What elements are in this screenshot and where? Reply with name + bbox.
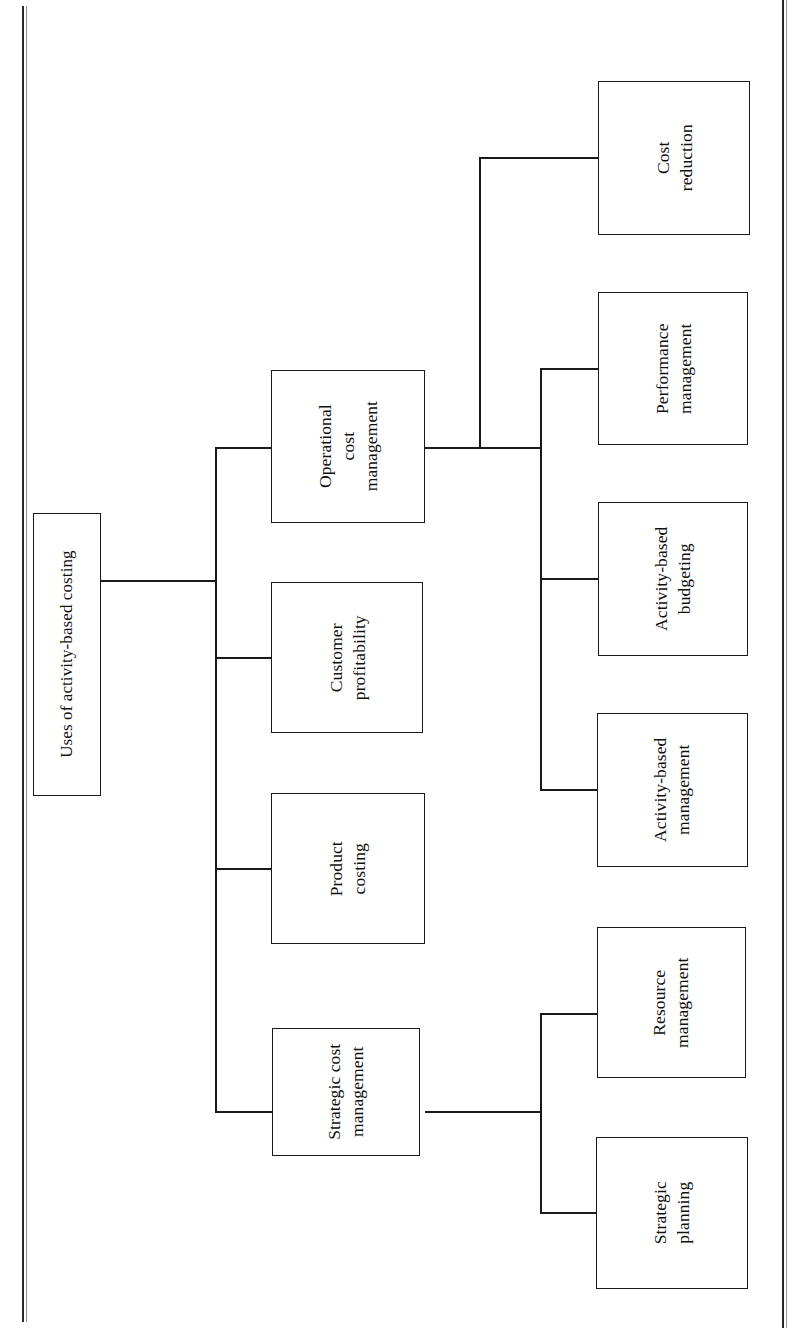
node-customer-profitability: Customer profitability xyxy=(271,582,423,733)
node-label-operational-cost-management: Operational cost management xyxy=(314,401,382,491)
connector-cost-reduction-vertical-bus xyxy=(479,157,481,448)
node-activity-based-budgeting: Activity-based budgeting xyxy=(598,502,748,656)
connector-bus-to-performance-management xyxy=(540,368,599,370)
connector-bus-to-activity-based-budgeting xyxy=(540,578,599,580)
node-label-root: Uses of activity-based costing xyxy=(56,551,78,758)
connector-root-to-bus xyxy=(101,580,216,582)
node-strategic-planning: Strategic planning xyxy=(596,1137,748,1289)
node-label-product-costing: Product costing xyxy=(325,841,371,896)
node-product-costing: Product costing xyxy=(271,793,425,944)
node-resource-management: Resource management xyxy=(597,927,746,1078)
connector-strategic-children-vertical-bus xyxy=(540,1013,542,1213)
node-label-cost-reduction: Cost reduction xyxy=(651,125,697,192)
activity-based-costing-tree-diagram: Uses of activity-based costing Operation… xyxy=(0,0,796,1328)
connector-bus-to-product-costing xyxy=(215,868,272,870)
node-label-activity-based-management: Activity-based management xyxy=(650,738,696,842)
connector-strategic-cost-management-outgoing xyxy=(425,1111,541,1113)
node-operational-cost-management: Operational cost management xyxy=(271,370,425,523)
node-cost-reduction: Cost reduction xyxy=(598,81,750,235)
connector-bus-to-strategic-cost-management xyxy=(215,1111,273,1113)
node-label-strategic-planning: Strategic planning xyxy=(649,1181,695,1244)
connector-operational-cost-management-outgoing xyxy=(425,447,541,449)
connector-bus-to-resource-management xyxy=(540,1013,598,1015)
connector-bus-to-activity-based-management xyxy=(540,789,598,791)
connector-bus-to-operational-cost-management xyxy=(215,447,272,449)
node-uses-of-activity-based-costing: Uses of activity-based costing xyxy=(33,513,101,796)
connector-level1-vertical-bus xyxy=(215,447,217,1112)
connector-bus-to-cost-reduction xyxy=(479,157,599,159)
node-label-strategic-cost-management: Strategic cost management xyxy=(323,1044,369,1140)
connector-bus-to-strategic-planning xyxy=(540,1212,597,1214)
node-label-activity-based-budgeting: Activity-based budgeting xyxy=(650,527,696,631)
connector-bus-to-customer-profitability xyxy=(215,657,272,659)
node-performance-management: Performance management xyxy=(598,292,748,445)
node-activity-based-management: Activity-based management xyxy=(597,713,748,867)
node-label-resource-management: Resource management xyxy=(649,957,695,1047)
node-label-performance-management: Performance management xyxy=(650,323,696,414)
node-label-customer-profitability: Customer profitability xyxy=(324,615,370,700)
node-strategic-cost-management: Strategic cost management xyxy=(272,1028,420,1156)
